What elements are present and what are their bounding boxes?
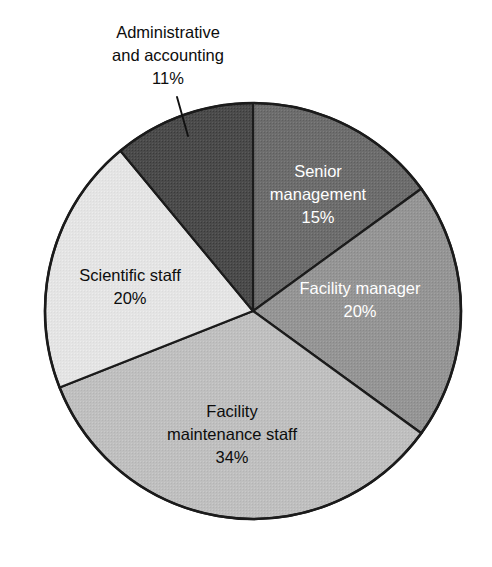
facility-maintenance-label-line1: Facility	[206, 402, 258, 420]
administrative-value: 11%	[152, 69, 184, 87]
scientific-staff-label-line1: Scientific staff	[79, 266, 181, 284]
facility-maintenance-label-line2: maintenance staff	[167, 425, 297, 443]
facility-manager-label-line1: Facility manager	[299, 279, 421, 297]
administrative-label-line1: Administrative	[116, 23, 220, 41]
scientific-staff-value: 20%	[113, 289, 146, 307]
senior-management-label-line1: Senior	[294, 162, 342, 180]
pie-slices	[45, 103, 461, 519]
facility-maintenance-value: 34%	[215, 448, 248, 466]
label-administrative-and-accounting: Administrative and accounting 11%	[112, 23, 224, 87]
administrative-label-line2: and accounting	[112, 46, 224, 64]
facility-manager-value: 20%	[343, 302, 376, 320]
pie-chart-figure: Senior management 15% Facility manager 2…	[0, 0, 492, 567]
pie-chart-svg: Senior management 15% Facility manager 2…	[0, 0, 492, 567]
senior-management-label-line2: management	[270, 185, 367, 203]
senior-management-value: 15%	[301, 208, 334, 226]
